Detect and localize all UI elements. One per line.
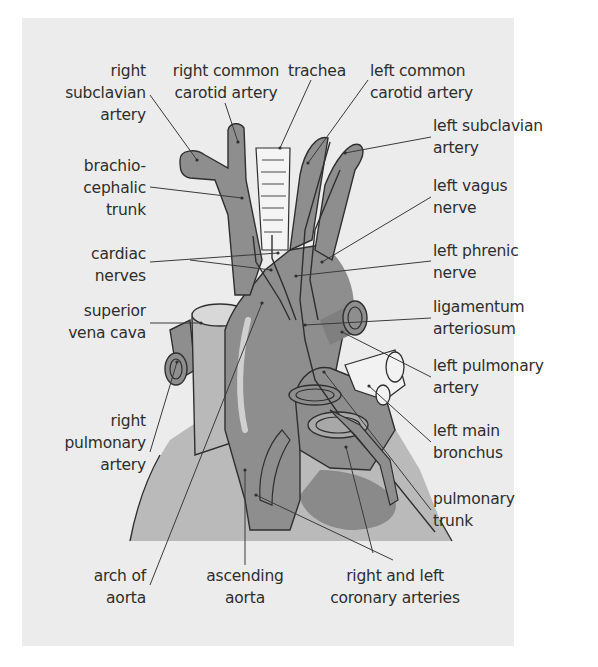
label-ascending-aorta: ascending aorta [195, 565, 295, 609]
label-right-and-left-coronary-arteries: right and left coronary arteries [325, 565, 465, 609]
label-left-common-carotid-artery: left common carotid artery [370, 60, 473, 104]
label-left-phrenic-nerve: left phrenic nerve [433, 240, 519, 284]
label-left-vagus-nerve: left vagus nerve [433, 175, 507, 219]
label-superior-vena-cava: superior vena cava [68, 300, 146, 344]
label-pulmonary-trunk: pulmonary trunk [433, 488, 515, 532]
label-left-subclavian-artery: left subclavian artery [433, 115, 543, 159]
right-pulmonary-artery-shape [165, 320, 195, 385]
trachea-shape [256, 148, 290, 250]
label-right-common-carotid-artery: right common carotid artery [171, 60, 281, 104]
label-right-subclavian-artery: right subclavian artery [65, 60, 146, 126]
label-right-pulmonary-artery: right pulmonary artery [64, 410, 146, 476]
label-brachiocephalic-trunk: brachio- cephalic trunk [83, 155, 146, 221]
label-ligamentum-arteriosum: ligamentum arteriosum [433, 296, 524, 340]
label-left-main-bronchus: left main bronchus [433, 420, 503, 464]
label-arch-of-aorta: arch of aorta [94, 565, 146, 609]
label-trachea: trachea [288, 60, 346, 82]
label-cardiac-nerves: cardiac nerves [91, 243, 146, 287]
brachiocephalic-trunk-shape [180, 124, 262, 295]
label-left-pulmonary-artery: left pulmonary artery [433, 355, 544, 399]
